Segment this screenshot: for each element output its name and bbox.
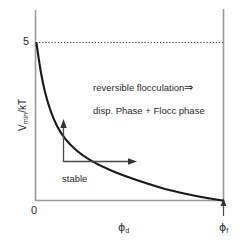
implies-arrow-icon: ⇒	[184, 82, 193, 93]
x-axis-title: ϕd	[118, 222, 129, 234]
annotation-stable: stable	[62, 174, 87, 184]
y-axis-title-min: min	[21, 113, 30, 125]
x-tick-label-0: 0	[31, 205, 37, 216]
y-axis-title: Vmin/kT	[18, 99, 29, 131]
phi-f-label-sub-f: f	[226, 226, 228, 235]
flocculation-phase-diagram: 5 0 Vmin/kT ϕd ϕf reversible flocculatio…	[0, 0, 249, 243]
y-tick-label-5: 5	[23, 36, 29, 47]
y-axis-title-v: V	[17, 124, 28, 131]
x-axis-title-sub-d: d	[125, 226, 129, 235]
y-axis-title-kt: /kT	[17, 99, 28, 113]
inset-right-arrow-head	[128, 158, 137, 164]
annotation-reversible-flocculation: reversible flocculation	[93, 83, 184, 93]
annotation-phase-equation: disp. Phase + Flocc phase	[93, 106, 205, 116]
phi-f-marker-head	[221, 198, 227, 206]
plot-canvas	[0, 0, 249, 243]
phi-f-label: ϕf	[219, 222, 228, 234]
inset-up-arrow-head	[60, 119, 66, 128]
